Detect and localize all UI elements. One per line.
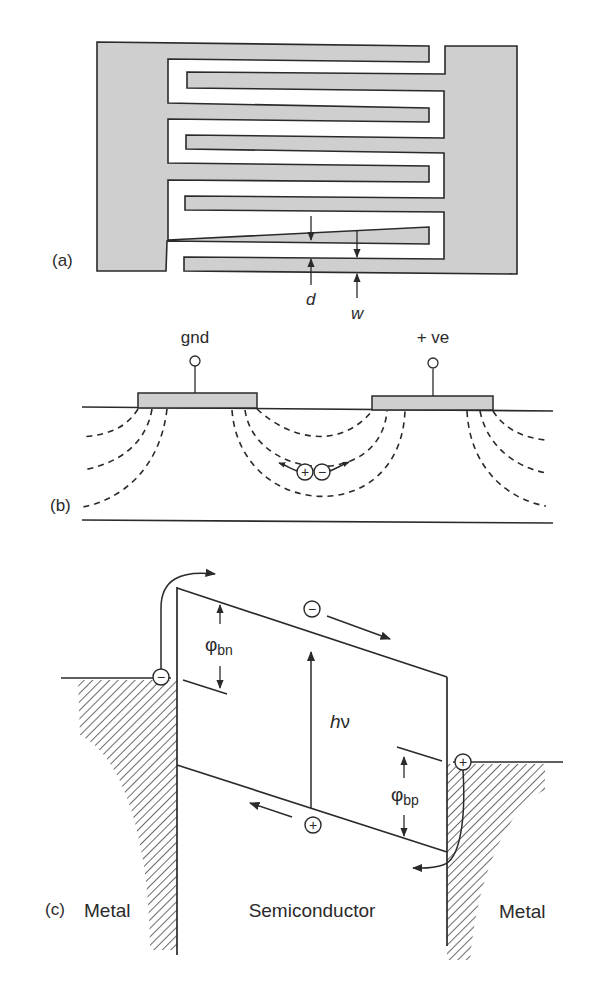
semiconductor-label: Semiconductor (249, 900, 376, 921)
hole-sign: + (301, 464, 309, 480)
electron-drift-arrow (330, 462, 349, 471)
gap-label-d: d (306, 290, 316, 309)
panel-a: d w (a) (52, 42, 517, 323)
figure-canvas: d w (a) gnd + ve (0, 0, 591, 989)
positive-terminal-icon (428, 358, 438, 368)
valence-band (177, 765, 447, 852)
phi-bn-label: φbn (205, 634, 233, 658)
gnd-label: gnd (181, 328, 209, 347)
left-metal-label: Metal (84, 900, 130, 921)
hole-drift-arrow (250, 803, 292, 817)
hole-drift-arrow (279, 463, 297, 471)
panel-c: φbn φbp hν − + − + Metal Semiconductor M… (45, 573, 563, 965)
positive-electrode (372, 396, 493, 410)
panel-label-a: (a) (52, 251, 73, 270)
electron-drift-arrow (327, 616, 390, 639)
substrate-bottom (82, 520, 553, 523)
electron-sign: − (318, 464, 326, 480)
phi-bp-label: φbp (391, 784, 419, 808)
width-label-w: w (351, 304, 365, 323)
panel-label-c: (c) (45, 900, 65, 919)
right-metal-hatch (440, 755, 560, 965)
right-metal-label: Metal (499, 901, 545, 922)
svg-text:+: + (309, 817, 317, 833)
panel-label-b: (b) (50, 496, 71, 515)
svg-text:+: + (459, 754, 467, 770)
electric-field-lines (82, 409, 546, 507)
positive-label: + ve (417, 328, 450, 347)
gnd-terminal-icon (190, 356, 200, 366)
svg-text:−: − (308, 601, 316, 617)
photon-energy-label: hν (330, 711, 350, 732)
gnd-electrode (138, 393, 257, 408)
panel-b: gnd + ve + − (b) (50, 328, 553, 523)
svg-text:−: − (157, 669, 165, 685)
